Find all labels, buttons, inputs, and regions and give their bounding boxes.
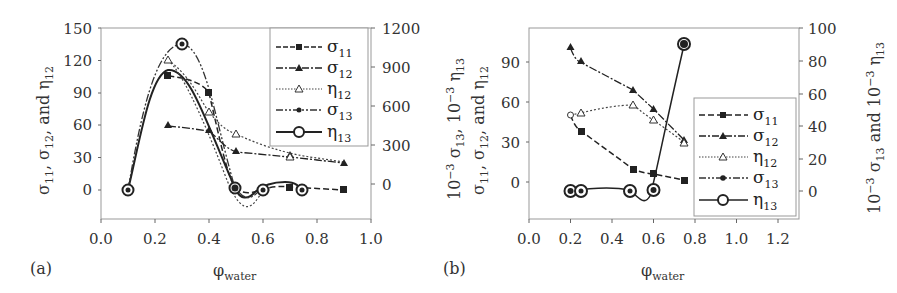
x-axis-b [529,219,778,223]
markers-b-sigma11 [578,128,688,184]
xtick-a-5: 1.0 [359,230,383,248]
y2tick-a-900: 900 [382,59,411,77]
xtick-a-0: 0.0 [89,230,113,248]
xtick-b-5: 1.0 [725,230,749,248]
x-axis-label-a: φwater [213,261,257,283]
markers-b-sigma13 [568,40,689,194]
y2tick-b-60: 60 [808,86,827,104]
ytick-b-60: 60 [501,94,520,112]
x-axis-label-b: φwater [641,261,685,283]
ytick-a-60: 60 [73,116,92,134]
series-a-sigma13 [128,44,258,198]
xtick-b-0: 0.0 [517,230,541,248]
xtick-a-4: 0.8 [305,230,329,248]
xtick-b-6: 1.2 [766,230,790,248]
y-axis-label-a: σ11, σ12, and η12 [34,66,56,195]
panel-label-a: (a) [30,259,52,278]
y2tick-b-0: 0 [808,183,818,201]
ytick-a-0: 0 [82,181,92,199]
xtick-b-3: 0.6 [642,230,666,248]
ytick-a-30: 30 [73,149,92,167]
y2tick-b-40: 40 [808,118,827,136]
chart-b: 90 60 30 0 100 80 60 40 20 0 0.0 0.2 0.4… [443,20,887,283]
xtick-b-4: 0.8 [683,230,707,248]
figure: 150 120 90 60 30 0 1200 900 600 300 0 0.… [0,0,897,293]
y2tick-a-1200: 1200 [382,20,420,38]
xtick-a-2: 0.4 [197,230,221,248]
y2tick-b-100: 100 [808,20,837,38]
y-axis-right-a [371,28,375,184]
x-axis-a [101,219,371,223]
series-b-sigma12 [571,48,685,140]
xtick-a-3: 0.6 [251,230,275,248]
y2tick-b-20: 20 [808,151,827,169]
ytick-b-0: 0 [510,174,520,192]
panel-label-b: (b) [443,259,466,278]
ytick-b-30: 30 [501,134,520,152]
xtick-b-1: 0.2 [559,230,583,248]
ytick-a-120: 120 [63,52,92,70]
y2-axis-label-b: 10−3 σ13 and 10−3 η13 [864,42,887,214]
xtick-a-1: 0.2 [143,230,167,248]
ytick-a-150: 150 [63,20,92,38]
xtick-b-2: 0.4 [600,230,624,248]
legend-a: σ11 σ12 η12 σ13 η13 [270,28,368,146]
y2tick-a-600: 600 [382,98,411,116]
ytick-a-90: 90 [73,84,92,102]
legend-b: σ11 σ12 η12 σ13 η13 [694,98,796,216]
y-axis-label-b-line2: σ11, σ12, and η12 [469,66,491,195]
chart-a: 150 120 90 60 30 0 1200 900 600 300 0 0.… [30,20,420,283]
ytick-b-90: 90 [501,54,520,72]
y2tick-a-0: 0 [382,176,392,194]
y2tick-a-300: 300 [382,137,411,155]
y2tick-b-80: 80 [808,53,827,71]
y-axis-right-b [799,28,803,191]
series-b-sigma11 [571,115,685,180]
y-axis-label-b-line1: 10−3 σ13, 10−3 η13 [444,58,467,200]
